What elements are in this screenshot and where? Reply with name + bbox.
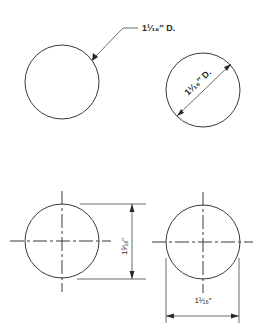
leader-label: 1¹⁄₁₆″ D. xyxy=(142,23,175,33)
view-horizontal-dimension: 1¹⁄₁₆″ xyxy=(152,192,253,323)
dim-arrowhead-right xyxy=(231,314,239,319)
leader-arrowhead xyxy=(92,53,98,61)
dim-arrowhead-top xyxy=(130,204,135,212)
diagonal-label: 1¹⁄₁₆″ D. xyxy=(182,67,213,97)
view-vertical-dimension: 1¹⁄₁₆″ xyxy=(10,191,146,292)
circle-1 xyxy=(25,45,99,119)
view-diagonal-dimension: 1¹⁄₁₆″ D. xyxy=(166,53,240,127)
drawing-canvas: 1¹⁄₁₆″ D. 1¹⁄₁₆″ D. 1¹⁄₁₆″ xyxy=(0,0,272,323)
horizontal-dimension-label: 1¹⁄₁₆″ xyxy=(194,296,211,305)
leader-line xyxy=(95,28,138,57)
view-leader-dimension: 1¹⁄₁₆″ D. xyxy=(25,23,175,119)
vertical-dimension-label: 1¹⁄₁₆″ xyxy=(120,238,129,255)
dim-arrowhead-bottom xyxy=(130,271,135,279)
dim-arrowhead-left xyxy=(166,314,174,319)
